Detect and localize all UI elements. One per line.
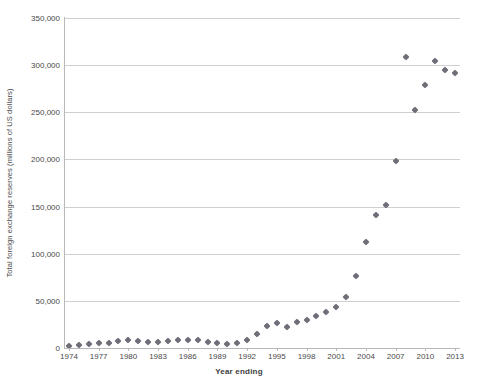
x-axis-tick-label: 1992 <box>238 352 256 361</box>
data-point <box>452 69 459 76</box>
data-point <box>224 340 231 347</box>
y-axis-tick-label: 300,000 <box>2 61 60 70</box>
x-axis-tick-label: 2007 <box>387 352 405 361</box>
data-point <box>194 337 201 344</box>
x-axis-tick-mark <box>336 348 337 351</box>
data-point <box>303 316 310 323</box>
data-point <box>155 338 162 345</box>
x-axis-tick-mark <box>99 348 100 351</box>
data-point <box>313 313 320 320</box>
x-axis-tick-label: 1980 <box>119 352 137 361</box>
data-point <box>204 338 211 345</box>
gridline-horizontal <box>64 112 460 113</box>
data-point <box>174 337 181 344</box>
x-axis-tick-label: 2013 <box>446 352 464 361</box>
data-point <box>402 53 409 60</box>
data-point <box>125 337 132 344</box>
gridline-horizontal <box>64 207 460 208</box>
x-axis-tick-mark <box>188 348 189 351</box>
x-axis-tick-label: 1983 <box>149 352 167 361</box>
y-axis-tick-label: 200,000 <box>2 155 60 164</box>
x-axis-tick-mark <box>69 348 70 351</box>
gridline-horizontal <box>64 65 460 66</box>
data-point <box>234 339 241 346</box>
data-point <box>343 294 350 301</box>
data-point <box>95 340 102 347</box>
data-point <box>184 337 191 344</box>
x-axis-tick-mark <box>158 348 159 351</box>
x-axis-tick-label: 2010 <box>416 352 434 361</box>
y-axis-tick-label: 100,000 <box>2 249 60 258</box>
data-point <box>164 337 171 344</box>
x-axis-tick-label: 1998 <box>298 352 316 361</box>
gridline-horizontal <box>64 159 460 160</box>
x-axis-tick-label: 1974 <box>60 352 78 361</box>
data-point <box>333 304 340 311</box>
x-axis-tick-label: 1986 <box>179 352 197 361</box>
y-axis-tick-labels: 050,000100,000150,000200,000250,000300,0… <box>0 0 60 389</box>
data-point <box>115 338 122 345</box>
y-axis-tick-label: 350,000 <box>2 14 60 23</box>
x-axis-tick-label: 2001 <box>327 352 345 361</box>
y-axis-tick-label: 250,000 <box>2 108 60 117</box>
gridline-horizontal <box>64 18 460 19</box>
data-point <box>323 308 330 315</box>
x-axis-tick-labels: 1974197719801983198619891992199519982001… <box>0 352 478 366</box>
x-axis-tick-mark <box>247 348 248 351</box>
data-point <box>145 338 152 345</box>
x-axis-title: Year ending <box>0 367 478 376</box>
y-axis-tick-label: 50,000 <box>2 296 60 305</box>
data-point <box>273 320 280 327</box>
x-axis-tick-label: 1977 <box>90 352 108 361</box>
data-point <box>283 323 290 330</box>
x-axis-tick-mark <box>307 348 308 351</box>
data-point <box>105 339 112 346</box>
data-point <box>135 337 142 344</box>
data-point <box>244 336 251 343</box>
chart-container: Total foreign exchange reserves (million… <box>0 0 478 389</box>
x-axis-tick-mark <box>455 348 456 351</box>
data-point <box>392 158 399 165</box>
data-point <box>85 341 92 348</box>
x-axis-tick-label: 2004 <box>357 352 375 361</box>
data-point <box>362 239 369 246</box>
x-axis-tick-mark <box>277 348 278 351</box>
data-point <box>353 273 360 280</box>
data-point <box>293 319 300 326</box>
data-point <box>432 58 439 65</box>
x-axis-tick-mark <box>425 348 426 351</box>
gridline-horizontal <box>64 254 460 255</box>
x-axis-tick-label: 1989 <box>209 352 227 361</box>
x-axis-tick-mark <box>217 348 218 351</box>
x-axis-tick-label: 1995 <box>268 352 286 361</box>
x-axis-tick-mark <box>128 348 129 351</box>
data-point <box>254 330 261 337</box>
data-point <box>442 66 449 73</box>
x-axis-tick-mark <box>366 348 367 351</box>
x-axis-line <box>64 348 460 349</box>
gridline-horizontal <box>64 301 460 302</box>
x-axis-tick-mark <box>396 348 397 351</box>
plot-area <box>64 18 460 348</box>
data-point <box>263 323 270 330</box>
data-point <box>422 81 429 88</box>
y-axis-tick-label: 150,000 <box>2 202 60 211</box>
data-point <box>372 212 379 219</box>
y-axis-line <box>64 17 65 349</box>
data-point <box>214 339 221 346</box>
